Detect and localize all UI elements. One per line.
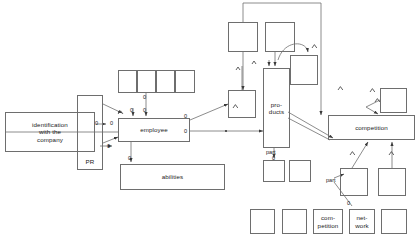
node-bottom-5[interactable] <box>381 209 407 234</box>
edge-label-zero-emp-right-bot: 0 <box>184 128 187 134</box>
node-top-strip-3[interactable] <box>156 70 175 93</box>
node-employee[interactable]: employee <box>118 118 190 142</box>
node-top-strip-4[interactable] <box>175 70 195 93</box>
node-lower-square-a[interactable] <box>340 168 368 196</box>
edge-label-zero-strip-down: 0 <box>143 94 146 100</box>
node-part-square-left[interactable] <box>263 160 285 182</box>
node-top-strip-1[interactable] <box>118 70 137 93</box>
diagram-canvas: identification with the company PR emplo… <box>0 0 420 242</box>
node-right-upper-square[interactable] <box>380 88 407 113</box>
node-abilities[interactable]: abilities <box>120 164 225 190</box>
edge-label-part-lower: part <box>326 177 336 183</box>
node-pr[interactable]: PR <box>77 95 103 170</box>
node-bottom-network[interactable]: net- work <box>349 209 375 234</box>
node-curve-target-square[interactable] <box>290 55 318 85</box>
node-lower-square-b[interactable] <box>378 168 406 196</box>
edge-label-zero-part: 0 <box>272 155 275 161</box>
node-top-square-right[interactable] <box>265 22 295 52</box>
node-competition[interactable]: competition <box>328 115 415 140</box>
edge-label-zero-emp-top-left: 0 <box>130 107 133 113</box>
edge-label-zero-emp-right-top: 0 <box>184 113 187 119</box>
edge-label-zero-pr-upper: 0 <box>95 120 98 126</box>
edge-label-zero-pr-emp: 0 <box>110 120 113 126</box>
node-part-square-right[interactable] <box>289 160 311 182</box>
node-top-strip-2[interactable] <box>137 70 156 93</box>
node-bottom-competition[interactable]: com- petition <box>313 209 343 234</box>
edge-label-zero-emp-lower-left: 0 <box>107 143 110 149</box>
node-bottom-2[interactable] <box>282 209 307 234</box>
node-mid-square[interactable] <box>228 90 256 118</box>
node-bottom-1[interactable] <box>250 209 275 234</box>
edge-label-zero-abilities: 0 <box>128 155 131 161</box>
node-products[interactable]: pro- ducts <box>263 68 290 148</box>
edge-label-zero-network: 0 <box>347 200 350 206</box>
edge-label-zero-emp-top-mid: 0 <box>143 107 146 113</box>
node-top-square-left[interactable] <box>228 22 258 52</box>
